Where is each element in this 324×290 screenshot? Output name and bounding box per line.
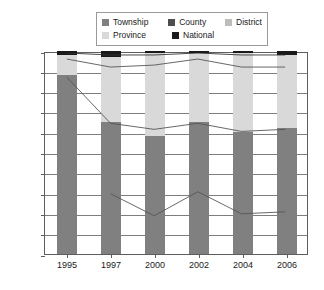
line-district: [67, 59, 285, 67]
x-axis-label: 1997: [91, 260, 131, 270]
legend-item-province: Province: [102, 31, 172, 40]
legend-label-township: Township: [113, 18, 148, 27]
legend-label-province: Province: [113, 31, 146, 40]
legend-swatch-national: [172, 32, 179, 39]
legend-swatch-county: [168, 19, 175, 26]
legend-item-county: County: [168, 18, 225, 27]
line-county-lower: [111, 192, 286, 216]
x-axis-label: 2002: [179, 260, 219, 270]
y-axis-tick: [41, 256, 45, 257]
x-axis-tick: [243, 254, 244, 258]
chart-root: Township County District Province Nation…: [0, 0, 324, 290]
legend-item-national: National: [172, 31, 232, 40]
legend-row-1: Township County District: [102, 16, 262, 29]
chart-legend: Township County District Province Nation…: [96, 12, 268, 46]
legend-item-district: District: [225, 18, 262, 27]
legend-item-township: Township: [102, 18, 168, 27]
line-county: [67, 77, 285, 131]
x-axis-label: 1995: [47, 260, 87, 270]
x-axis-tick: [287, 254, 288, 258]
x-axis-tick: [67, 254, 68, 258]
x-axis-label: 2006: [267, 260, 307, 270]
legend-swatch-township: [102, 19, 109, 26]
x-axis-tick: [199, 254, 200, 258]
line-national-line: [67, 53, 285, 55]
legend-label-district: District: [236, 18, 262, 27]
legend-swatch-province: [102, 32, 109, 39]
plot-area: 100%90%80%70%60%50%40%30%20%10%0%1995199…: [44, 52, 308, 255]
line-overlay: [45, 53, 307, 254]
x-axis-tick: [111, 254, 112, 258]
legend-row-2: Province National: [102, 29, 262, 42]
x-axis-tick: [155, 254, 156, 258]
legend-label-county: County: [179, 18, 206, 27]
legend-label-national: National: [183, 31, 214, 40]
x-axis-label: 2004: [223, 260, 263, 270]
x-axis-label: 2000: [135, 260, 175, 270]
legend-swatch-district: [225, 19, 232, 26]
